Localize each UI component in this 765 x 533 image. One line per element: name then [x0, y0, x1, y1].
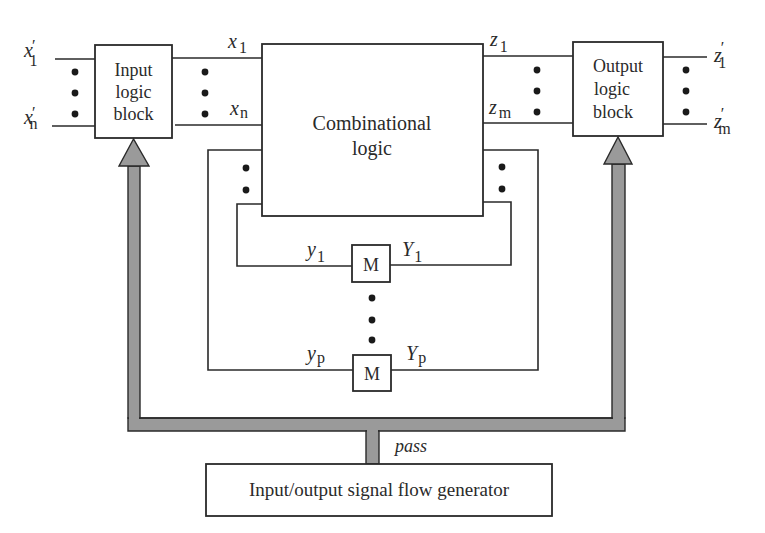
generator-label: Input/output signal flow generator: [249, 479, 510, 500]
memory-1-label: M: [363, 255, 379, 275]
combinational-label-2: logic: [352, 137, 392, 160]
combinational-label-1: Combinational: [313, 112, 432, 134]
input-logic-label-2: logic: [116, 82, 152, 102]
feedback-right-ellipsis: [499, 164, 506, 193]
arrow-up-to-input-logic: [119, 139, 149, 166]
feedback-left-ellipsis: [243, 165, 250, 194]
signal-xn-prime: x′n: [23, 104, 37, 132]
signal-x1: x1: [227, 30, 247, 56]
input-logic-label-3: block: [114, 104, 154, 124]
output-logic-label-3: block: [593, 102, 633, 122]
output-logic-label-1: Output: [593, 56, 643, 76]
memory-block-1: M: [352, 245, 390, 282]
signal-z1: z1: [489, 28, 508, 55]
memory-p-label: M: [364, 364, 380, 384]
output-prime-ellipsis: [683, 67, 690, 116]
output-logic-block: Output logic block: [573, 42, 663, 136]
memory-ellipsis: [369, 295, 376, 344]
signal-zm-prime: z′m: [713, 105, 731, 137]
x-lines: [172, 58, 262, 125]
arrow-up-to-output-logic: [604, 137, 632, 164]
signal-Y1: Y1: [402, 238, 422, 265]
input-prime-ellipsis: [72, 69, 79, 118]
signal-xn: xn: [229, 97, 248, 121]
sequential-circuit-diagram: x′1 x′n Input logic block x1 xn Combinat…: [0, 0, 765, 533]
z-ellipsis: [534, 67, 541, 116]
signal-yp: yp: [305, 342, 325, 367]
signal-z1-prime: z′1: [713, 39, 726, 71]
combinational-logic-block: Combinational logic: [262, 44, 483, 216]
signal-x1-prime: x′1: [23, 37, 37, 69]
signal-y1: y1: [305, 238, 325, 265]
pass-signal-label: pass: [393, 436, 427, 456]
input-logic-block: Input logic block: [95, 45, 172, 138]
signal-Yp: Yp: [406, 342, 426, 367]
input-logic-label-1: Input: [115, 60, 153, 80]
signal-flow-generator-block: Input/output signal flow generator: [206, 464, 552, 516]
signal-zm: zm: [488, 96, 512, 121]
x-ellipsis: [202, 69, 209, 118]
output-logic-label-2: logic: [594, 79, 630, 99]
memory-block-p: M: [353, 355, 391, 391]
